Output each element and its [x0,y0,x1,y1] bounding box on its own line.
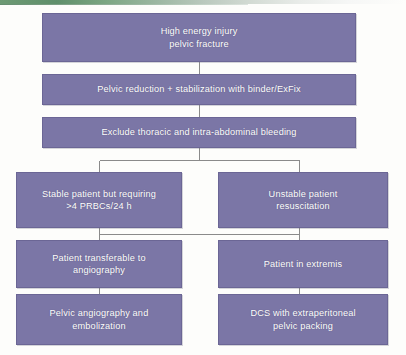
node-label: DCS with extraperitoneal pelvic packing [250,307,355,332]
node-pelvic-angiography: Pelvic angiography and embolization [16,294,182,345]
node-label: High energy injury pelvic fracture [161,25,238,50]
node-label: Stable patient but requiring >4 PRBCs/24… [42,188,156,213]
node-label: Pelvic reduction + stabilization with bi… [97,83,300,95]
node-dcs-packing: DCS with extraperitoneal pelvic packing [218,294,388,345]
node-label: Exclude thoracic and intra-abdominal ble… [101,126,296,138]
node-label: Patient transferable to angiography [52,252,145,277]
node-pelvic-reduction: Pelvic reduction + stabilization with bi… [42,74,356,105]
node-unstable-patient: Unstable patient resuscitation [218,172,388,228]
node-patient-transferable: Patient transferable to angiography [16,240,182,288]
node-stable-patient: Stable patient but requiring >4 PRBCs/24… [16,172,182,228]
node-patient-in-extremis: Patient in extremis [218,240,388,288]
flowchart-figure: High energy injury pelvic fracture Pelvi… [0,0,406,355]
node-label: Patient in extremis [264,258,342,270]
node-label: Pelvic angiography and embolization [50,307,149,332]
node-label: Unstable patient resuscitation [269,188,338,213]
node-exclude-bleeding: Exclude thoracic and intra-abdominal ble… [42,117,356,148]
node-high-energy-injury: High energy injury pelvic fracture [42,13,356,62]
